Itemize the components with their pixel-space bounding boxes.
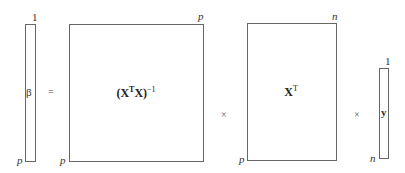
xtx-inverse-cols-label: p (198, 11, 204, 22)
xtx-inverse-label: (XTX)−1 (116, 87, 155, 99)
y-rows-label: n (370, 153, 376, 164)
times-operator-2: × (354, 110, 360, 120)
xtx-inverse-rows-label: p (60, 155, 66, 166)
beta-cols-label: 1 (32, 12, 38, 23)
y-label: y (381, 107, 387, 118)
x-transpose-rows-label: p (239, 154, 245, 165)
beta-rows-label: p (17, 155, 23, 166)
times-operator-1: × (221, 110, 227, 120)
y-cols-label: 1 (385, 56, 391, 67)
equals-operator: = (48, 87, 54, 97)
beta-label: β (26, 87, 32, 98)
x-transpose-label: XT (284, 86, 298, 98)
x-transpose-cols-label: n (332, 11, 338, 22)
